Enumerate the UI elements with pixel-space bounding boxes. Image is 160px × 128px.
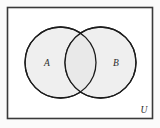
venn-diagram-figure: A B U (0, 0, 160, 128)
universal-set-label: U (141, 105, 149, 115)
set-a-label: A (43, 58, 50, 68)
venn-diagram-canvas: A B U (0, 0, 160, 128)
set-b-label: B (113, 58, 119, 68)
